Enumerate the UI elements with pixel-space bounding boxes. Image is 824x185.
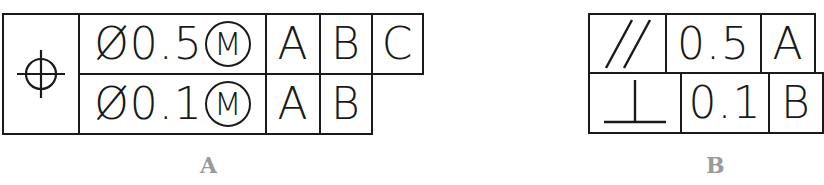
parallelism-symbol-cell	[588, 13, 667, 74]
diameter-symbol: Ø	[94, 82, 130, 126]
datum-cell: A	[760, 13, 816, 74]
modifier-label: M	[214, 25, 242, 63]
tolerance-value-cell: 0.5	[665, 13, 762, 74]
datum-cell: A	[265, 73, 321, 135]
diameter-symbol: Ø	[94, 22, 130, 66]
position-icon	[16, 49, 66, 99]
figure-caption-b: B	[706, 152, 725, 178]
datum-cell: B	[319, 73, 373, 135]
datum-cell: A	[265, 13, 321, 75]
tolerance-cell-row2: Ø 0.1 M	[78, 73, 267, 135]
datum-cell: C	[371, 13, 424, 75]
perpendicularity-symbol-cell	[588, 72, 682, 134]
tolerance-value: 0.5	[130, 22, 203, 66]
perpendicularity-icon	[602, 78, 668, 128]
mmc-modifier-icon: M	[205, 21, 251, 67]
mmc-modifier-icon: M	[205, 81, 251, 127]
tolerance-value-cell: 0.1	[680, 72, 770, 134]
modifier-label: M	[214, 85, 242, 123]
parallelism-icon	[602, 16, 654, 72]
tolerance-cell-row1: Ø 0.5 M	[78, 13, 267, 75]
datum-cell: B	[319, 13, 373, 75]
figure-caption-a: A	[200, 152, 217, 178]
position-symbol-cell	[2, 13, 80, 135]
tolerance-value: 0.1	[130, 82, 203, 126]
datum-cell: B	[768, 72, 824, 134]
